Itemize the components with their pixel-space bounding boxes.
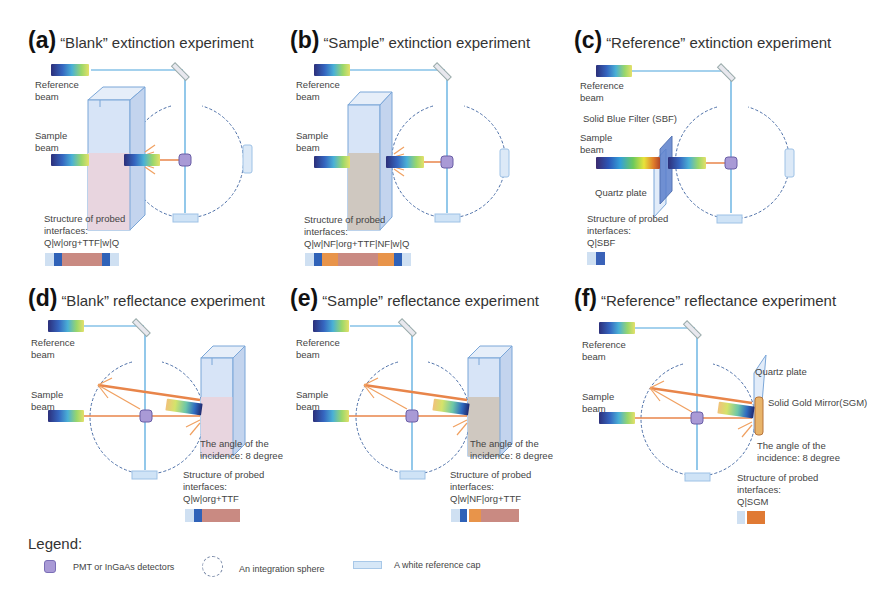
mirror-icon (172, 63, 190, 81)
reference-beam-spectrum (51, 64, 89, 76)
reference-beam-spectrum (599, 322, 635, 334)
white-reference-cap-icon (132, 471, 157, 479)
white-reference-cap-icon (353, 561, 382, 569)
reference-beam-spectrum (48, 320, 84, 332)
solid-gold-mirror-label: Solid Gold Mirror(SGM) (768, 397, 867, 409)
sample-beam-label: Samplebeam (296, 130, 328, 154)
detector-icon (179, 154, 191, 166)
transmitted-beam-spectrum (124, 154, 160, 166)
mirror-icon (684, 321, 702, 339)
structure-label: Structure of probedinterfaces:Q|SBF (587, 213, 668, 249)
structure-layers-bar (305, 253, 411, 266)
white-reference-cap-icon (243, 145, 252, 173)
white-reference-cap-icon (400, 471, 425, 479)
sample-beam-label: Samplebeam (35, 130, 67, 154)
white-reference-cap-icon (785, 149, 794, 177)
reference-beam-spectrum (313, 320, 349, 332)
quartz-plate-label: Quartz plate (595, 187, 647, 199)
reference-beam-label: Referencebeam (35, 79, 79, 103)
legend-label: A white reference cap (394, 560, 481, 570)
mirror-icon (133, 319, 151, 337)
legend-item-detector: PMT or InGaAs detectors (44, 560, 174, 573)
panel-e: (e)“Sample” reflectance experiment Refer… (290, 285, 586, 555)
legend-item-white-reference-cap: A white reference cap (353, 560, 481, 570)
panel-f: (f)“Reference” reflectance experiment Re… (580, 285, 896, 555)
structure-label: Structure of probedinterfaces:Q|w|NF|org… (304, 214, 409, 250)
reference-beam-spectrum (596, 65, 632, 77)
structure-layers-bar (185, 509, 240, 522)
legend-title: Legend: (28, 535, 82, 552)
solid-gold-mirror-icon (755, 397, 763, 435)
reference-beam-label: Referencebeam (296, 79, 340, 103)
sample-beam-spectrum (596, 157, 660, 169)
sample-beam-label: Samplebeam (580, 132, 612, 156)
legend-label: PMT or InGaAs detectors (73, 562, 174, 572)
quartz-plate-label: Quartz plate (755, 366, 807, 378)
white-reference-cap-icon (435, 214, 460, 222)
legend-label: An integration sphere (239, 564, 325, 574)
detector-icon (140, 410, 152, 422)
filter-label: Solid Blue Filter (SBF) (583, 113, 677, 125)
transmitted-beam-spectrum (386, 156, 424, 168)
detector-icon (406, 410, 418, 422)
detector-icon (441, 156, 453, 168)
sample-beam-spectrum (599, 412, 635, 424)
transmitted-beam-spectrum (668, 157, 706, 169)
structure-layers-bar (451, 509, 519, 522)
structure-label: Structure of probedinterfaces:Q|SGM (737, 472, 818, 508)
structure-layers-bar (45, 253, 119, 266)
angle-of-incidence-label: The angle of theincidence: 8 degree (470, 438, 553, 462)
mirror-icon (434, 63, 452, 81)
white-reference-cap-icon (173, 214, 198, 222)
white-reference-cap-icon (500, 149, 509, 177)
sample-beam-spectrum (314, 156, 350, 168)
structure-layers-bar (587, 252, 605, 265)
sample-beam-spectrum (48, 410, 84, 422)
reference-beam-label: Referencebeam (582, 339, 626, 363)
panel-c: (c)“Reference” extinction experiment Ref… (580, 27, 896, 297)
structure-label: Structure of probedinterfaces:Q|w|org+TT… (44, 213, 125, 249)
panel-a: (a)“Blank” extinction experiment Referen… (28, 27, 324, 297)
sample-beam-spectrum (51, 154, 89, 166)
reference-beam-label: Referencebeam (580, 80, 624, 104)
legend-item-integration-sphere: An integration sphere (202, 560, 325, 577)
sample-beam-spectrum (313, 410, 349, 422)
detector-icon (44, 560, 56, 573)
solid-blue-filter-icon (660, 136, 672, 204)
panel-d: (d)“Blank” reflectance experiment Refere… (28, 285, 324, 555)
white-reference-cap-icon (685, 473, 710, 481)
mirror-icon (718, 64, 736, 82)
panel-b: (b)“Sample” extinction experiment Refere… (290, 27, 586, 297)
detector-icon (725, 157, 737, 169)
integration-sphere-icon (202, 556, 223, 577)
mirror-icon (399, 319, 417, 337)
detector-icon (691, 412, 703, 424)
angle-of-incidence-label: The angle of theincidence: 8 degree (757, 440, 840, 464)
structure-label: Structure of probedinterfaces:Q|w|org+TT… (183, 469, 264, 505)
angle-of-incidence-label: The angle of theincidence: 8 degree (200, 438, 283, 462)
white-reference-cap-icon (717, 215, 742, 223)
structure-layers-bar (737, 511, 765, 524)
reference-beam-spectrum (314, 64, 350, 76)
reference-beam-label: Referencebeam (296, 337, 340, 361)
reference-beam-label: Referencebeam (31, 337, 75, 361)
structure-label: Structure of probedinterfaces:Q|w|NF|org… (450, 469, 531, 505)
